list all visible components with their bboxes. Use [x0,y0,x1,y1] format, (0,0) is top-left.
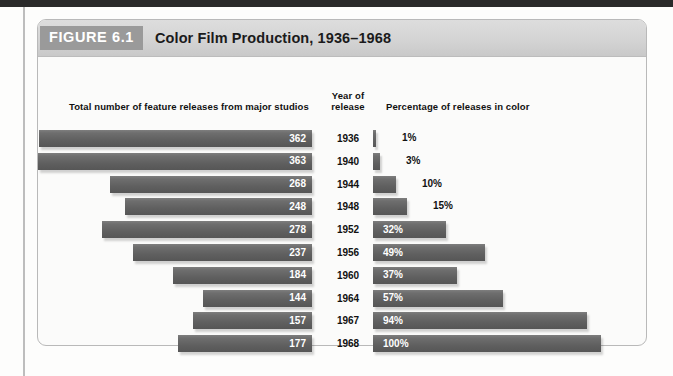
percentage-track-1956: 49% [373,244,601,261]
releases-bar-1960: 184 [173,267,312,284]
releases-value-1948: 248 [289,202,312,212]
percentage-track-1936: 1% [373,130,601,147]
releases-value-1964: 144 [289,293,312,303]
releases-value-1960: 184 [289,270,312,280]
releases-track-1944: 268 [38,176,312,193]
percentage-bar-1948 [373,198,407,215]
releases-bar-1956: 237 [133,244,312,261]
releases-value-1944: 268 [289,179,312,189]
percentage-bar-1936 [373,130,376,147]
figure-number-tag: FIGURE 6.1 [40,26,143,50]
page-left-margin-rule [23,7,25,376]
releases-bar-1948: 248 [125,198,312,215]
releases-track-1960: 184 [38,267,312,284]
figure-plot-area: Total number of feature releases from ma… [38,57,646,347]
releases-track-1952: 278 [38,221,312,238]
figure-card: FIGURE 6.1 Color Film Production, 1936–1… [37,19,647,346]
year-label-1948: 1948 [321,200,375,213]
releases-track-1968: 177 [38,335,312,352]
percentage-value-1940: 3% [406,156,420,166]
year-label-1944: 1944 [321,178,375,191]
percentage-value-1964: 57% [373,293,403,303]
releases-bar-1967: 157 [193,312,312,329]
percentage-bar-1967: 94% [373,312,587,329]
percentage-track-1940: 3% [373,153,601,170]
percentage-value-1967: 94% [373,316,403,326]
chart-row-1936: 36219361% [38,130,646,153]
year-label-1940: 1940 [321,155,375,168]
percentage-value-1952: 32% [373,225,403,235]
percentage-bar-1964: 57% [373,290,503,307]
releases-bar-1936: 362 [39,130,312,147]
column-header-year-line1: Year of [332,90,364,101]
figure-header: FIGURE 6.1 Color Film Production, 1936–1… [38,20,646,57]
chart-row-1940: 36319403% [38,153,646,176]
releases-bar-1964: 144 [203,290,312,307]
chart-row-1964: 144196457% [38,290,646,313]
releases-value-1968: 177 [289,339,312,349]
year-label-1964: 1964 [321,292,375,305]
percentage-value-1968: 100% [373,339,409,349]
releases-bar-1952: 278 [102,221,312,238]
releases-value-1952: 278 [289,225,312,235]
percentage-bar-1940 [373,153,380,170]
percentage-track-1948: 15% [373,198,601,215]
percentage-track-1960: 37% [373,267,601,284]
percentage-track-1967: 94% [373,312,601,329]
chart-row-1956: 237195649% [38,244,646,267]
releases-bar-1940: 363 [38,153,312,170]
year-label-1956: 1956 [321,246,375,259]
percentage-value-1956: 49% [373,248,403,258]
chart-row-1944: 268194410% [38,176,646,199]
year-label-1960: 1960 [321,269,375,282]
page-top-band [0,0,673,7]
chart-row-1952: 278195232% [38,221,646,244]
percentage-bar-1960: 37% [373,267,457,284]
figure-title: Color Film Production, 1936–1968 [155,30,391,46]
releases-track-1936: 362 [38,130,312,147]
releases-track-1940: 363 [38,153,312,170]
releases-track-1948: 248 [38,198,312,215]
percentage-track-1964: 57% [373,290,601,307]
percentage-bar-1956: 49% [373,244,485,261]
percentage-value-1944: 10% [422,179,442,189]
percentage-value-1948: 15% [433,201,453,211]
column-header-releases: Total number of feature releases from ma… [69,101,309,112]
chart-row-1967: 157196794% [38,312,646,335]
column-header-percentage: Percentage of releases in color [386,101,530,112]
releases-value-1956: 237 [289,248,312,258]
releases-track-1956: 237 [38,244,312,261]
releases-value-1940: 363 [289,156,312,166]
percentage-track-1944: 10% [373,176,601,193]
year-label-1968: 1968 [321,337,375,350]
chart-row-1948: 248194815% [38,198,646,221]
column-header-year: Year of release [321,90,375,112]
percentage-track-1968: 100% [373,335,601,352]
column-header-year-line2: release [321,101,375,112]
releases-bar-1968: 177 [178,335,312,352]
percentage-value-1960: 37% [373,270,403,280]
year-label-1936: 1936 [321,132,375,145]
releases-track-1964: 144 [38,290,312,307]
percentage-bar-1952: 32% [373,221,446,238]
releases-value-1967: 157 [289,316,312,326]
percentage-bar-1968: 100% [373,335,601,352]
releases-value-1936: 362 [289,134,312,144]
year-label-1952: 1952 [321,223,375,236]
chart-row-1960: 184196037% [38,267,646,290]
percentage-value-1936: 1% [402,133,416,143]
releases-track-1967: 157 [38,312,312,329]
percentage-bar-1944 [373,176,396,193]
percentage-track-1952: 32% [373,221,601,238]
year-label-1967: 1967 [321,314,375,327]
releases-bar-1944: 268 [110,176,312,193]
chart-row-1968: 1771968100% [38,335,646,358]
